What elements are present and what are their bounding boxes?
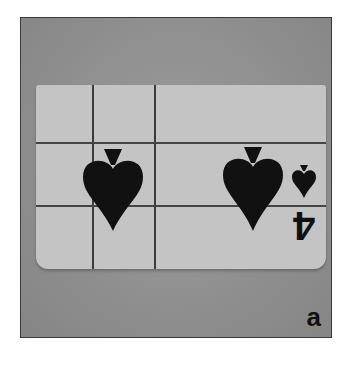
figure-panel: 4 a <box>20 17 332 338</box>
spade-pip-large-left-icon <box>81 149 145 233</box>
spade-pip-large-right-icon <box>221 147 285 233</box>
panel-label: a <box>307 304 321 330</box>
grid-line-horizontal-1 <box>36 142 326 144</box>
spade-index-small-icon <box>292 165 316 199</box>
card-rank-index: 4 <box>293 206 315 246</box>
grid-line-vertical-2 <box>154 85 156 269</box>
playing-card: 4 <box>36 85 326 269</box>
